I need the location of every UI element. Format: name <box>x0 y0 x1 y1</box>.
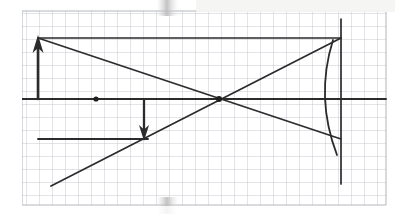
ray-crossing-dot <box>216 96 222 102</box>
top-edge-shadow-band <box>157 0 179 16</box>
top-right-wash <box>196 0 395 12</box>
left-margin-wash <box>0 0 22 214</box>
ray-diagram-svg <box>0 0 395 214</box>
focal-point-dot <box>93 96 98 101</box>
bottom-margin-wash <box>0 206 395 214</box>
ray-diagram-canvas: Concave mirror ray diagram <box>0 0 395 214</box>
